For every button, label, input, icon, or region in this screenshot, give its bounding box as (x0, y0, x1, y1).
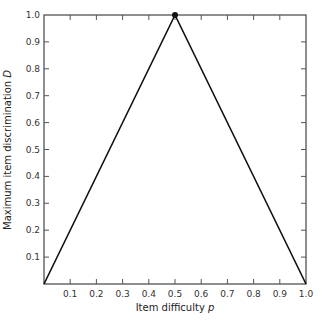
x-tick-label: 0.6 (194, 289, 209, 299)
y-tick-labels: 0.10.20.30.40.50.60.70.80.91.0 (26, 10, 41, 262)
y-tick-label: 0.8 (26, 64, 41, 74)
y-tick-label: 0.4 (26, 171, 41, 181)
chart: 0.10.20.30.40.50.60.70.80.91.0 0.10.20.3… (0, 0, 322, 323)
x-tick-label: 0.9 (273, 289, 288, 299)
x-tick-label: 1.0 (299, 289, 314, 299)
y-tick-label: 0.1 (26, 252, 40, 262)
x-tick-label: 0.7 (220, 289, 234, 299)
max-discrimination-line (44, 15, 306, 284)
x-axis-label: Item difficulty p (136, 302, 215, 313)
x-tick-label: 0.1 (63, 289, 77, 299)
x-tick-labels: 0.10.20.30.40.50.60.70.80.91.0 (63, 289, 313, 299)
y-tick-label: 0.6 (26, 118, 41, 128)
y-tick-label: 1.0 (26, 10, 41, 20)
data-points (172, 12, 178, 18)
y-tick-label: 0.3 (26, 198, 40, 208)
y-axis-label: Maximum item discrimination D (2, 70, 13, 230)
y-tick-label: 0.7 (26, 91, 40, 101)
x-tick-label: 0.3 (115, 289, 129, 299)
x-tick-label: 0.4 (142, 289, 157, 299)
x-tick-label: 0.8 (246, 289, 261, 299)
axis-ticks (44, 15, 306, 284)
x-tick-label: 0.2 (89, 289, 103, 299)
y-tick-label: 0.5 (26, 145, 40, 155)
y-tick-label: 0.9 (26, 37, 41, 47)
y-tick-label: 0.2 (26, 225, 40, 235)
x-tick-label: 0.5 (168, 289, 182, 299)
peak-point-marker (172, 12, 178, 18)
plot-frame (44, 15, 306, 284)
